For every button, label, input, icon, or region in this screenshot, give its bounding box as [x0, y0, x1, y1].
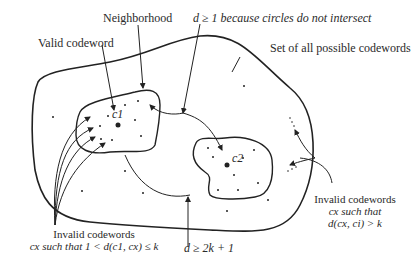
label-distance-note: d ≥ 1 because circles do not intersect	[193, 12, 371, 24]
neighborhood-c1	[76, 90, 160, 153]
label-invalid-left: Invalid codewords cx such that 1 < d(c1,…	[14, 228, 174, 252]
label-min-distance: d ≥ 2k + 1	[184, 242, 234, 254]
label-valid-codeword: Valid codeword	[38, 37, 114, 49]
label-set-all-codewords: Set of all possible codewords	[270, 42, 411, 54]
label-c1: c1	[112, 108, 123, 120]
label-neighborhood: Neighborhood	[103, 12, 172, 24]
all-codewords-boundary	[32, 36, 313, 232]
label-c2: c2	[232, 152, 243, 164]
label-invalid-right: Invalid codewords cx such that d(cx, ci)…	[300, 193, 410, 229]
neighborhood-c2	[193, 137, 272, 199]
